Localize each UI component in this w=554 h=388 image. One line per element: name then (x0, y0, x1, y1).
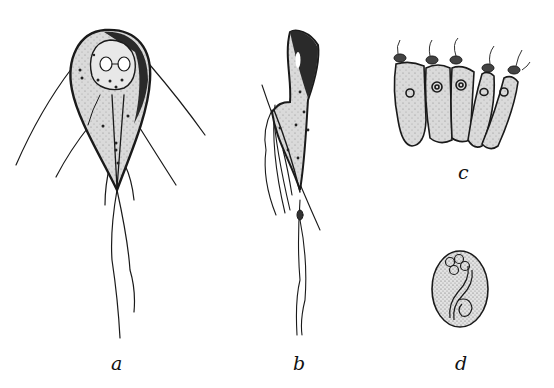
label-d: d (455, 352, 467, 374)
panel-b-organism (262, 31, 320, 335)
figure: a b c d (0, 0, 554, 388)
panel-a-organism (16, 30, 205, 338)
epithelial-cell-1 (394, 62, 426, 146)
label-c: c (458, 161, 469, 183)
illustration (0, 0, 554, 388)
label-b: b (293, 352, 305, 374)
epithelial-cell-2 (426, 65, 453, 143)
label-a: a (111, 352, 122, 374)
panel-c-cells (394, 38, 530, 149)
panel-d-cyst (432, 251, 488, 327)
